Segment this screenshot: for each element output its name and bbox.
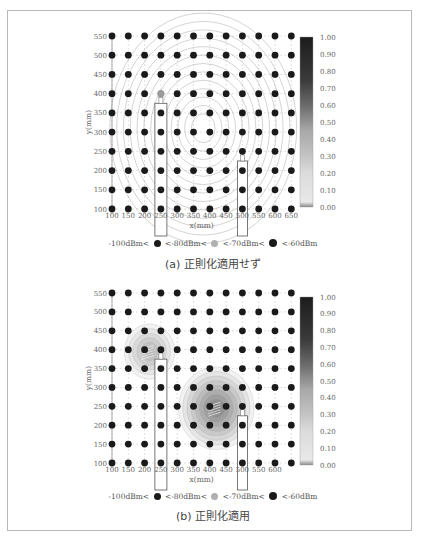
measurement-point	[125, 129, 132, 136]
measurement-point	[141, 403, 148, 410]
measurement-point	[288, 167, 295, 174]
colorbar-tick-label: 0.80	[320, 327, 336, 335]
legend-a-label4: <-60dBm	[282, 239, 318, 248]
legend-dot-large-icon	[269, 492, 277, 500]
measurement-point	[190, 186, 197, 193]
x-tick-label: 450	[219, 466, 232, 474]
measurement-point	[206, 109, 213, 116]
measurement-point	[223, 186, 230, 193]
x-tick-label: 500	[236, 466, 249, 474]
x-tick-label: 550	[252, 212, 265, 220]
measurement-point	[174, 167, 181, 174]
measurement-point	[158, 148, 165, 155]
measurement-point	[239, 90, 246, 97]
y-tick-label: 100	[94, 206, 107, 214]
measurement-point	[239, 52, 246, 59]
measurement-point	[190, 403, 197, 410]
x-tick-label: 200	[138, 212, 151, 220]
measurement-point	[255, 33, 262, 40]
measurement-point	[158, 52, 165, 59]
measurement-point	[190, 365, 197, 372]
measurement-point	[288, 71, 295, 78]
measurement-point	[125, 33, 132, 40]
legend-a-label2: <-80dBm<	[165, 239, 207, 248]
measurement-point	[272, 308, 279, 315]
measurement-point	[125, 403, 132, 410]
measurement-point	[125, 365, 132, 372]
measurement-point	[158, 290, 165, 297]
measurement-point	[288, 346, 295, 353]
measurement-point	[125, 441, 132, 448]
measurement-point	[255, 71, 262, 78]
colorbar-tick-label: 0.60	[320, 361, 336, 369]
measurement-point	[190, 290, 197, 297]
measurement-point	[109, 90, 116, 97]
measurement-point	[125, 109, 132, 116]
measurement-point	[239, 346, 246, 353]
measurement-point	[223, 290, 230, 297]
measurement-point	[158, 186, 165, 193]
colorbar	[300, 37, 313, 207]
measurement-point	[109, 129, 116, 136]
x-tick-label: 350	[187, 466, 200, 474]
measurement-point	[288, 422, 295, 429]
y-tick-label: 300	[94, 129, 107, 137]
y-tick-label: 550	[94, 290, 107, 298]
measurement-point	[190, 33, 197, 40]
caption-a: (a) 正則化適用せず	[0, 255, 426, 271]
measurement-point	[223, 33, 230, 40]
measurement-point	[255, 186, 262, 193]
measurement-point	[239, 33, 246, 40]
measurement-point	[158, 167, 165, 174]
measurement-point	[109, 346, 116, 353]
measurement-point	[158, 403, 165, 410]
measurement-point	[223, 365, 230, 372]
measurement-point	[272, 441, 279, 448]
measurement-point	[157, 90, 164, 97]
measurement-point	[288, 403, 295, 410]
measurement-point	[141, 52, 148, 59]
measurement-point	[272, 109, 279, 116]
measurement-point	[109, 327, 116, 334]
measurement-point	[109, 186, 116, 193]
measurement-point	[109, 290, 116, 297]
measurement-point	[223, 308, 230, 315]
measurement-point	[158, 422, 165, 429]
colorbar	[300, 297, 313, 465]
measurement-point	[206, 422, 213, 429]
measurement-point	[206, 384, 213, 391]
measurement-point	[125, 308, 132, 315]
measurement-point	[239, 308, 246, 315]
colorbar-tick-label: 1.00	[320, 34, 336, 42]
measurement-point	[206, 403, 213, 410]
measurement-point	[223, 71, 230, 78]
measurement-point	[272, 33, 279, 40]
y-tick-label: 400	[94, 346, 107, 354]
measurement-point	[239, 403, 246, 410]
y-tick-label: 450	[94, 327, 107, 335]
measurement-point	[174, 52, 181, 59]
measurement-point	[223, 327, 230, 334]
legend-dot-black-icon	[154, 240, 161, 247]
legend-b-label3: <-70dBm<	[223, 492, 265, 501]
measurement-point	[206, 346, 213, 353]
measurement-point	[288, 460, 295, 467]
measurement-point	[174, 346, 181, 353]
measurement-point	[190, 129, 197, 136]
measurement-point	[206, 441, 213, 448]
antenna-feed	[240, 155, 244, 161]
measurement-point	[158, 71, 165, 78]
colorbar-tick-label: 0.30	[320, 153, 336, 161]
measurement-point	[174, 384, 181, 391]
measurement-point	[158, 109, 165, 116]
colorbar-tick-label: 0.90	[320, 51, 336, 59]
antenna-feed	[159, 97, 163, 103]
contour-line	[191, 114, 215, 143]
colorbar-tick-label: 0.50	[320, 378, 336, 386]
caption-b: (b) 正則化適用	[0, 507, 426, 523]
measurement-point	[239, 186, 246, 193]
colorbar-tick-label: 0.20	[320, 170, 336, 178]
colorbar-tick-label: 0.50	[320, 119, 336, 127]
measurement-point	[223, 109, 230, 116]
measurement-point	[223, 384, 230, 391]
